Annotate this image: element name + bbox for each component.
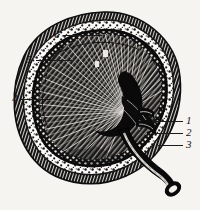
kidney-figure: 1 2 3 4 5 6: [0, 0, 200, 210]
callout-label-2: 2: [186, 127, 192, 138]
callout-label-3: 3: [186, 139, 192, 150]
leader-line-5: [36, 60, 74, 61]
leader-line-2: [152, 133, 183, 134]
leader-line-6: [63, 35, 102, 36]
callout-label-6: 6: [54, 29, 60, 40]
leader-line-1: [152, 121, 183, 122]
callout-label-1: 1: [186, 115, 192, 126]
kidney-illustration: [0, 0, 200, 210]
callout-label-4: 4: [12, 93, 18, 104]
leader-line-3: [158, 145, 183, 146]
callout-label-5: 5: [27, 54, 33, 65]
leader-line-4: [21, 99, 51, 100]
